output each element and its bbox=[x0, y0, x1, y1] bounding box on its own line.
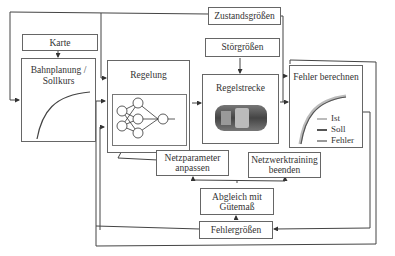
vehicle-icon bbox=[215, 105, 267, 131]
zustandsgroessen-label: Zustandsgrößen bbox=[209, 11, 280, 22]
stoergroessen-label: Störgrößen bbox=[206, 42, 279, 53]
netzparameter-box: Netzparameter anpassen bbox=[156, 150, 229, 176]
fehlergroessen-label: Fehlergrößen bbox=[200, 225, 272, 236]
regelung-label: Regelung bbox=[108, 70, 189, 81]
karte-label: Karte bbox=[23, 38, 97, 49]
bahnplanung-label-line2: Sollkurs bbox=[22, 76, 95, 87]
stoergroessen-box: Störgrößen bbox=[205, 38, 280, 57]
neural-network-icon bbox=[113, 95, 186, 145]
netzparameter-label-line2: anpassen bbox=[157, 163, 228, 174]
legend-item-ist: Ist bbox=[317, 113, 354, 124]
bahnplanung-label-line1: Bahnplanung / bbox=[22, 65, 95, 76]
neural-network-frame bbox=[112, 94, 187, 146]
zustandsgroessen-box: Zustandsgrößen bbox=[208, 7, 281, 25]
legend: Ist Soll Fehler bbox=[317, 113, 354, 146]
abgleich-box: Abgleich mit Gütemaß bbox=[200, 188, 274, 215]
netzwerktraining-box: Netzwerktraining beenden bbox=[248, 152, 321, 178]
regelstrecke-box: Regelstrecke bbox=[202, 74, 279, 144]
regelstrecke-label: Regelstrecke bbox=[203, 83, 278, 94]
netzwerktraining-label-line2: beenden bbox=[249, 165, 320, 176]
legend-item-fehler: Fehler bbox=[317, 135, 354, 146]
fehlergroessen-box: Fehlergrößen bbox=[199, 221, 273, 239]
abgleich-label-line2: Gütemaß bbox=[201, 202, 273, 213]
bahnplanung-box: Bahnplanung / Sollkurs bbox=[21, 58, 96, 142]
fehler-berechnen-box: Fehler berechnen Ist Soll Fehler bbox=[289, 65, 363, 148]
legend-item-soll: Soll bbox=[317, 124, 354, 135]
karte-box: Karte bbox=[22, 34, 98, 51]
regelung-box: Regelung bbox=[107, 60, 190, 153]
sollkurs-curve-icon bbox=[32, 87, 92, 142]
fehler-berechnen-label: Fehler berechnen bbox=[290, 72, 362, 83]
